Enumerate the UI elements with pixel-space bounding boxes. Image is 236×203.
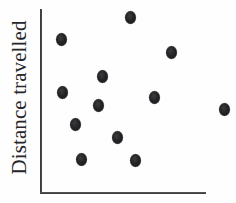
x-axis-line (40, 192, 206, 194)
data-point (149, 91, 160, 104)
data-point (125, 11, 136, 24)
data-point (56, 33, 67, 46)
y-axis-title-text: Distance travelled (10, 21, 31, 175)
y-axis-title: Distance travelled (0, 0, 40, 195)
y-axis-line (40, 9, 42, 194)
data-point (130, 154, 141, 167)
data-point (70, 118, 81, 131)
data-point (166, 46, 177, 59)
data-point (97, 70, 108, 83)
data-point (112, 131, 123, 144)
data-point (93, 99, 104, 112)
data-point (76, 153, 87, 166)
plot-area: Distance travelled (0, 0, 236, 203)
data-point (219, 103, 230, 116)
scatter-plot-figure: Distance travelled (0, 0, 236, 203)
data-point (57, 86, 68, 99)
